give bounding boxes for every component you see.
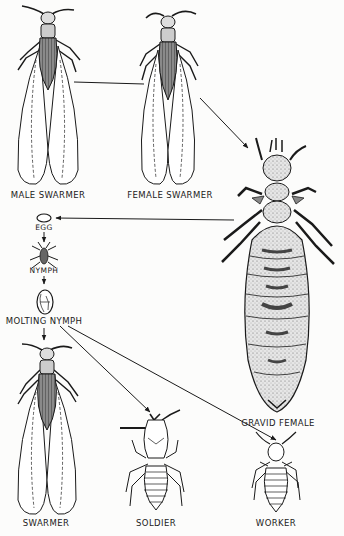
termite-lifecycle-diagram: MALE SWARMER FEMALE SWARMER GRAVID FEMAL…	[0, 0, 344, 536]
arrow-female-to-gravid	[200, 98, 248, 148]
nymph-figure	[30, 242, 58, 268]
female-swarmer-figure	[140, 11, 198, 184]
molting-nymph-figure	[37, 290, 53, 314]
label-gravid-female: GRAVID FEMALE	[241, 418, 315, 428]
connector-male-female	[74, 82, 144, 84]
swarmer-figure	[18, 344, 78, 514]
label-female-swarmer: FEMALE SWARMER	[127, 190, 212, 200]
egg-figure	[37, 214, 51, 222]
label-egg: EGG	[35, 223, 53, 232]
label-worker: WORKER	[256, 518, 296, 528]
label-swarmer: SWARMER	[23, 518, 69, 528]
label-soldier: SOLDIER	[136, 518, 176, 528]
worker-figure	[252, 432, 300, 512]
label-nymph: NYMPH	[30, 266, 59, 275]
male-swarmer-figure	[18, 6, 80, 184]
label-male-swarmer: MALE SWARMER	[11, 190, 85, 200]
arrow-gravid-to-egg	[56, 218, 234, 220]
gravid-female-figure	[222, 138, 334, 412]
label-molting-nymph: MOLTING NYMPH	[6, 316, 83, 326]
soldier-figure	[120, 410, 184, 510]
